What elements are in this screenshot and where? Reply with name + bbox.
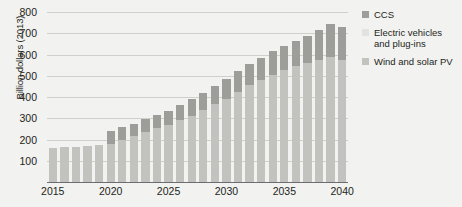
x-axis-line bbox=[47, 182, 348, 183]
bar-segment-ccs bbox=[211, 86, 219, 105]
legend-item-wind-and-solar-pv[interactable]: Wind and solar PV bbox=[362, 56, 460, 67]
bar-segment-wind-and-solar-pv bbox=[72, 147, 80, 182]
legend-swatch-icon bbox=[362, 58, 369, 65]
bar-segment-ccs bbox=[234, 71, 242, 91]
bar-2031[interactable] bbox=[234, 71, 242, 182]
bar-2028[interactable] bbox=[199, 93, 207, 182]
bar-segment-ccs bbox=[188, 99, 196, 116]
y-tick-label-300: 300 bbox=[3, 112, 37, 124]
bar-segment-wind-and-solar-pv bbox=[118, 140, 126, 182]
bar-segment-ccs bbox=[280, 46, 288, 70]
bar-segment-ccs bbox=[199, 93, 207, 110]
legend-label: Wind and solar PV bbox=[374, 56, 453, 67]
bar-2034[interactable] bbox=[269, 51, 277, 182]
bar-segment-wind-and-solar-pv bbox=[95, 145, 103, 182]
bar-2018[interactable] bbox=[83, 146, 91, 182]
bar-segment-ccs bbox=[338, 27, 346, 60]
bar-2032[interactable] bbox=[245, 64, 253, 182]
legend-label: Electric vehicles and plug-ins bbox=[374, 27, 460, 49]
bar-segment-wind-and-solar-pv bbox=[269, 75, 277, 182]
bar-2019[interactable] bbox=[95, 145, 103, 182]
bar-segment-wind-and-solar-pv bbox=[222, 99, 230, 182]
bar-segment-ccs bbox=[164, 111, 172, 125]
bar-segment-ccs bbox=[176, 105, 184, 120]
y-axis-tick-labels: 100200300400500600700800 bbox=[0, 12, 42, 182]
bar-2027[interactable] bbox=[188, 99, 196, 182]
bar-segment-wind-and-solar-pv bbox=[315, 60, 323, 182]
bar-2038[interactable] bbox=[315, 30, 323, 182]
bar-segment-wind-and-solar-pv bbox=[326, 57, 334, 182]
x-tick-label-2025: 2025 bbox=[157, 185, 180, 197]
bar-2035[interactable] bbox=[280, 46, 288, 182]
bar-segment-ccs bbox=[245, 64, 253, 85]
x-tick-label-2035: 2035 bbox=[273, 185, 296, 197]
bar-segment-ccs bbox=[130, 124, 138, 137]
bar-2040[interactable] bbox=[338, 27, 346, 182]
bar-2039[interactable] bbox=[326, 24, 334, 182]
bar-segment-ccs bbox=[269, 51, 277, 74]
bar-2033[interactable] bbox=[257, 58, 265, 182]
bar-segment-wind-and-solar-pv bbox=[83, 146, 91, 182]
y-tick-label-100: 100 bbox=[3, 155, 37, 167]
bar-series-group bbox=[47, 12, 348, 182]
bar-segment-ccs bbox=[141, 119, 149, 132]
bar-segment-wind-and-solar-pv bbox=[164, 125, 172, 182]
x-tick-label-2030: 2030 bbox=[215, 185, 238, 197]
x-tick-label-2020: 2020 bbox=[99, 185, 122, 197]
bar-segment-ccs bbox=[153, 115, 161, 129]
bar-2021[interactable] bbox=[118, 127, 126, 182]
bar-2016[interactable] bbox=[60, 147, 68, 182]
bar-segment-ccs bbox=[292, 41, 300, 66]
y-tick-label-800: 800 bbox=[3, 6, 37, 18]
bar-segment-wind-and-solar-pv bbox=[130, 136, 138, 182]
chart-legend: CCSElectric vehicles and plug-insWind an… bbox=[362, 9, 460, 74]
legend-label: CCS bbox=[374, 9, 394, 20]
bar-segment-wind-and-solar-pv bbox=[141, 132, 149, 182]
bar-segment-wind-and-solar-pv bbox=[60, 147, 68, 182]
bar-segment-ccs bbox=[222, 79, 230, 99]
legend-item-electric-vehicles-and-plug-ins[interactable]: Electric vehicles and plug-ins bbox=[362, 27, 460, 49]
bar-segment-wind-and-solar-pv bbox=[338, 60, 346, 182]
x-tick-label-2015: 2015 bbox=[41, 185, 64, 197]
legend-item-ccs[interactable]: CCS bbox=[362, 9, 460, 20]
bar-segment-wind-and-solar-pv bbox=[176, 120, 184, 182]
bar-2026[interactable] bbox=[176, 105, 184, 182]
bar-segment-wind-and-solar-pv bbox=[153, 128, 161, 182]
bar-segment-ccs bbox=[315, 30, 323, 60]
bar-2017[interactable] bbox=[72, 147, 80, 182]
bar-segment-wind-and-solar-pv bbox=[292, 66, 300, 182]
bar-2036[interactable] bbox=[292, 41, 300, 182]
chart-figure: Billion dollars (2013) 10020030040050060… bbox=[0, 0, 462, 207]
bar-segment-ccs bbox=[118, 127, 126, 140]
y-tick-label-700: 700 bbox=[3, 27, 37, 39]
bar-2030[interactable] bbox=[222, 79, 230, 182]
bar-segment-ccs bbox=[257, 58, 265, 80]
legend-swatch-icon bbox=[362, 11, 369, 18]
bar-segment-ccs bbox=[107, 131, 115, 144]
bar-2020[interactable] bbox=[107, 131, 115, 182]
y-tick-label-600: 600 bbox=[3, 49, 37, 61]
bar-segment-ccs bbox=[303, 36, 311, 63]
x-tick-label-2040: 2040 bbox=[331, 185, 354, 197]
y-tick-label-200: 200 bbox=[3, 134, 37, 146]
y-tick-label-500: 500 bbox=[3, 70, 37, 82]
bar-segment-wind-and-solar-pv bbox=[280, 70, 288, 182]
y-tick-label-400: 400 bbox=[3, 91, 37, 103]
bar-2024[interactable] bbox=[153, 115, 161, 182]
bar-segment-wind-and-solar-pv bbox=[199, 110, 207, 182]
bar-2037[interactable] bbox=[303, 36, 311, 182]
bar-segment-ccs bbox=[326, 24, 334, 57]
x-axis-tick-labels: 201520202025203020352040 bbox=[47, 185, 348, 203]
bar-segment-wind-and-solar-pv bbox=[303, 63, 311, 182]
bar-segment-wind-and-solar-pv bbox=[257, 80, 265, 182]
bar-segment-wind-and-solar-pv bbox=[234, 92, 242, 182]
bar-2022[interactable] bbox=[130, 124, 138, 182]
legend-swatch-icon bbox=[362, 29, 369, 36]
bar-segment-wind-and-solar-pv bbox=[49, 148, 57, 182]
bar-2029[interactable] bbox=[211, 86, 219, 182]
bar-2015[interactable] bbox=[49, 148, 57, 182]
bar-segment-wind-and-solar-pv bbox=[107, 144, 115, 182]
bar-2023[interactable] bbox=[141, 119, 149, 182]
bar-2025[interactable] bbox=[164, 111, 172, 182]
bar-segment-wind-and-solar-pv bbox=[211, 104, 219, 182]
